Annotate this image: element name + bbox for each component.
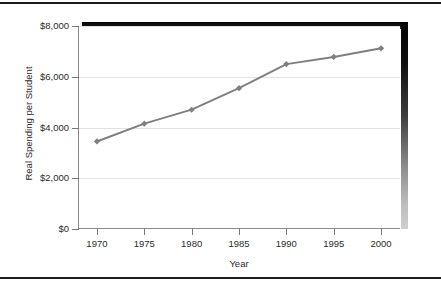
x-axis-tick xyxy=(334,229,335,235)
x-axis-tick xyxy=(144,229,145,235)
chart-figure: $0$2,000$4,000$6,000$8,000 1970197519801… xyxy=(0,0,441,288)
x-axis-title: Year xyxy=(78,258,400,269)
x-axis-tick xyxy=(192,229,193,235)
gridline-y xyxy=(78,128,400,129)
x-axis-tick-label: 1975 xyxy=(121,238,167,249)
y-axis-tick xyxy=(72,26,79,27)
y-axis-tick-label: $8,000 xyxy=(40,21,69,31)
y-axis-tick xyxy=(72,77,79,78)
x-axis-tick-label: 1980 xyxy=(169,238,215,249)
x-axis-tick xyxy=(381,229,382,235)
y-axis-tick-label: $6,000 xyxy=(40,72,69,82)
y-axis-tick-label: $2,000 xyxy=(40,173,69,183)
y-axis-tick-label: $4,000 xyxy=(40,123,69,133)
x-axis-tick-label: 2000 xyxy=(358,238,404,249)
x-axis-tick-label: 1990 xyxy=(263,238,309,249)
plot-shadow-right xyxy=(401,22,408,229)
gridline-y xyxy=(78,77,400,78)
x-axis-tick-label: 1995 xyxy=(311,238,357,249)
x-axis-tick-label: 1970 xyxy=(74,238,120,249)
y-axis-tick xyxy=(72,178,79,179)
x-axis-tick xyxy=(286,229,287,235)
x-axis-tick-label: 1985 xyxy=(216,238,262,249)
gridline-y xyxy=(78,178,400,179)
plot-wrapper: $0$2,000$4,000$6,000$8,000 1970197519801… xyxy=(0,0,441,288)
y-axis-title: Real Spending per Student xyxy=(23,49,34,199)
y-axis-tick-label: $0 xyxy=(58,224,69,234)
gridline-y xyxy=(78,26,400,27)
x-axis-tick xyxy=(239,229,240,235)
x-axis-tick xyxy=(97,229,98,235)
y-axis-tick xyxy=(72,229,79,230)
y-axis-tick xyxy=(72,128,79,129)
